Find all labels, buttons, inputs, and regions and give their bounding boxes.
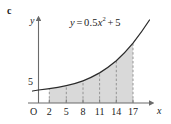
part-label: c (7, 6, 11, 16)
equation-equals: = (75, 17, 84, 28)
equation-plus: + (106, 17, 115, 28)
figure-container: c y x y=0.5x2+5 5 O 2 5 8 11 14 17 (0, 0, 171, 124)
x-tick-label-5: 5 (64, 107, 69, 117)
y-tick-label-5: 5 (28, 77, 33, 87)
x-tick-label-14: 14 (111, 107, 121, 117)
equation-coefficient: 0.5 (84, 17, 98, 28)
origin-label: O (30, 107, 37, 117)
equation-constant: 5 (115, 17, 120, 28)
x-tick-label-11: 11 (95, 107, 105, 117)
y-axis-label: y (30, 16, 34, 26)
x-tick-label-17: 17 (128, 107, 138, 117)
x-tick-label-8: 8 (81, 107, 86, 117)
shaded-area-under-curve (49, 43, 133, 103)
equation-annotation: y=0.5x2+5 (70, 16, 121, 28)
x-tick-label-2: 2 (47, 107, 52, 117)
x-axis-label: x (157, 106, 161, 116)
